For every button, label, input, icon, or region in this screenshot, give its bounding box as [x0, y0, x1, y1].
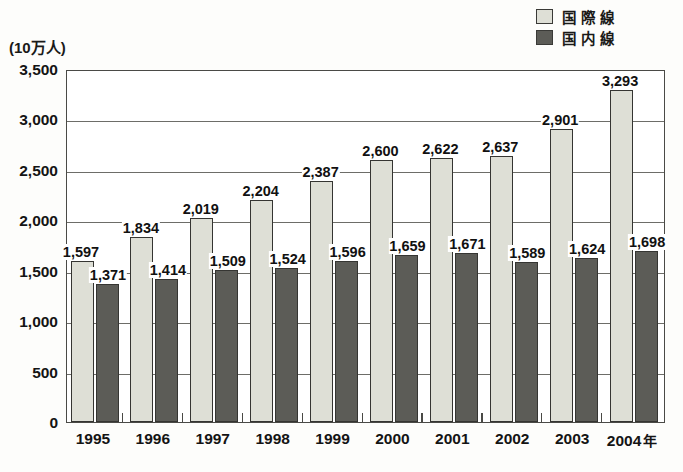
value-label-international: 2,622 [421, 141, 459, 157]
bar-domestic [275, 268, 298, 422]
value-label-domestic: 1,671 [448, 236, 486, 252]
bar-domestic [155, 279, 178, 422]
x-axis-tick-label: 2004年 [607, 430, 657, 450]
plot-area: 1,5971,3711,8341,4142,0191,5092,2041,524… [66, 70, 665, 423]
x-axis-tick-labels: 1995199619971998199920002001200220032004… [0, 430, 683, 456]
x-axis-tick-mark [122, 413, 123, 422]
x-axis-tick-label: 2003 [555, 430, 589, 448]
value-label-domestic: 1,524 [269, 251, 307, 267]
y-axis-tick-label: 3,500 [0, 61, 58, 79]
bar-international [610, 90, 633, 422]
x-axis-unit-suffix: 年 [643, 433, 657, 449]
bar-international [71, 261, 94, 422]
value-label-international: 2,387 [301, 164, 339, 180]
value-label-international: 3,293 [601, 73, 639, 89]
value-label-international: 2,637 [481, 139, 519, 155]
bar-domestic [215, 270, 238, 422]
y-axis-unit-label: (10万人) [9, 36, 66, 57]
bars-layer: 1,5971,3711,8341,4142,0191,5092,2041,524… [67, 71, 664, 422]
value-label-domestic: 1,509 [209, 253, 247, 269]
y-axis-tick-label: 1,500 [0, 263, 58, 281]
bar-domestic [515, 262, 538, 422]
legend-label-domestic: 国内線 [562, 27, 619, 48]
value-label-domestic: 1,589 [508, 245, 546, 261]
bar-international [550, 129, 573, 422]
value-label-domestic: 1,698 [628, 234, 666, 250]
y-axis-tick-label: 3,000 [0, 111, 58, 129]
x-axis-tick-mark [182, 413, 183, 422]
y-axis-tick-label: 500 [0, 364, 58, 382]
bar-domestic [395, 255, 418, 422]
bar-international [250, 200, 273, 422]
value-label-domestic: 1,414 [149, 262, 187, 278]
y-axis-tick-label: 1,000 [0, 313, 58, 331]
x-axis-tick-mark [541, 413, 542, 422]
x-axis-tick-label: 1998 [255, 430, 289, 448]
x-axis-tick-label: 2002 [495, 430, 529, 448]
value-label-international: 1,597 [62, 244, 100, 260]
x-axis-tick-label: 1997 [196, 430, 230, 448]
x-axis-tick-label: 1999 [315, 430, 349, 448]
legend-label-international: 国際線 [562, 6, 619, 27]
x-axis-tick-label: 2001 [435, 430, 469, 448]
legend-swatch-international-icon [536, 9, 553, 24]
x-axis-tick-label: 1995 [76, 430, 110, 448]
x-axis-tick-label: 1996 [136, 430, 170, 448]
x-axis-tick-mark [421, 413, 422, 422]
legend-swatch-domestic-icon [536, 30, 553, 45]
value-label-domestic: 1,624 [568, 241, 606, 257]
value-label-domestic: 1,659 [388, 238, 426, 254]
y-axis-tick-label: 2,000 [0, 212, 58, 230]
value-label-domestic: 1,596 [328, 244, 366, 260]
bar-domestic [335, 261, 358, 422]
y-axis-tick-label: 2,500 [0, 162, 58, 180]
x-axis-tick-mark [601, 413, 602, 422]
x-axis-tick-mark [242, 413, 243, 422]
value-label-domestic: 1,371 [89, 267, 127, 283]
bar-domestic [575, 258, 598, 422]
bar-international [310, 181, 333, 422]
bar-domestic [455, 253, 478, 422]
bar-international [490, 156, 513, 422]
bar-domestic [635, 251, 658, 422]
legend-item-international: 国際線 [536, 6, 676, 27]
chart-screenshot: 国際線 国内線 (10万人) 05001,0001,5002,0002,5003… [0, 0, 683, 472]
value-label-international: 2,901 [541, 112, 579, 128]
value-label-international: 1,834 [122, 220, 160, 236]
value-label-international: 2,019 [182, 201, 220, 217]
bar-international [190, 218, 213, 422]
value-label-international: 2,204 [242, 183, 280, 199]
bar-international [370, 160, 393, 422]
x-axis-tick-mark [362, 413, 363, 422]
x-axis-tick-mark [302, 413, 303, 422]
x-axis-tick-label: 2000 [375, 430, 409, 448]
bar-domestic [96, 284, 119, 422]
bar-international [430, 158, 453, 422]
x-axis-tick-mark [481, 413, 482, 422]
chart-legend: 国際線 国内線 [536, 6, 676, 48]
value-label-international: 2,600 [361, 143, 399, 159]
legend-item-domestic: 国内線 [536, 27, 676, 48]
